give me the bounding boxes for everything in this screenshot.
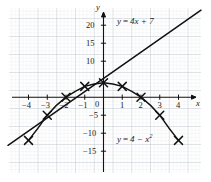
x-tick-label--4: −4	[22, 101, 31, 110]
parabola-eq-sign: =	[121, 134, 130, 144]
y-tick-label-10: 10	[86, 57, 95, 66]
parabola-eq-rhs: 4 − x	[130, 134, 149, 144]
x-tick-label--3: −3	[41, 101, 50, 110]
line-equation-label: y=4x + 7	[117, 17, 154, 26]
graph-figure: y x −4 −3 −2 −1 0 1 2 3 4 20 15 10 −5 −1…	[0, 0, 211, 182]
parabola-eq-exponent: 2	[149, 132, 152, 139]
x-tick-label--2: −2	[60, 101, 69, 110]
x-tick-label-0: 0	[95, 100, 99, 109]
line-eq-rhs: 4x + 7	[130, 16, 154, 26]
x-tick-label-1: 1	[120, 101, 124, 110]
x-tick-label-2: 2	[139, 101, 143, 110]
grid-lines	[9, 8, 201, 173]
line-eq-sign: =	[121, 16, 130, 26]
y-tick-label-20: 20	[86, 21, 95, 30]
parabola-equation-label: y=4 − x2	[117, 133, 152, 144]
y-tick-label--5: −5	[89, 111, 98, 120]
y-tick-label--10: −10	[83, 129, 96, 138]
x-tick-label-4: 4	[176, 101, 180, 110]
x-tick-label--1: −1	[79, 101, 88, 110]
y-axis-name: y	[96, 3, 100, 12]
x-axis-name: x	[196, 99, 200, 108]
graph-canvas	[0, 0, 211, 182]
y-tick-label-15: 15	[86, 39, 95, 48]
x-tick-label-3: 3	[158, 101, 162, 110]
y-tick-label--15: −15	[83, 147, 96, 156]
